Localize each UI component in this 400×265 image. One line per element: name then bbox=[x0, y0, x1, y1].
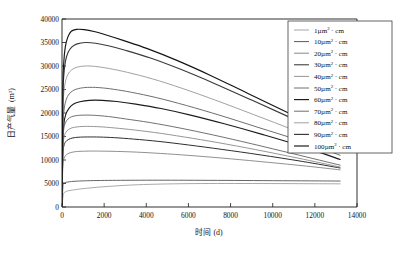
x-tick-label: 8000 bbox=[223, 211, 238, 220]
y-tick-label: 5000 bbox=[44, 179, 59, 188]
y-tick-label: 10000 bbox=[41, 156, 60, 165]
y-tick-label: 15000 bbox=[41, 132, 60, 141]
chart-figure: 0500010000150002000025000300003500040000… bbox=[0, 0, 400, 265]
x-axis-title-text: 时间 (d) bbox=[195, 227, 222, 237]
x-tick-label: 0 bbox=[60, 211, 64, 220]
x-tick-label: 6000 bbox=[181, 211, 196, 220]
legend-label-100: 100µm2· cm bbox=[314, 142, 351, 150]
x-tick-label: 10000 bbox=[263, 211, 282, 220]
x-tick-label: 4000 bbox=[139, 211, 154, 220]
y-axis-title-text: 日产气量 (m3) bbox=[6, 88, 16, 138]
y-tick-label: 30000 bbox=[41, 62, 60, 71]
y-tick-label: 35000 bbox=[41, 38, 60, 47]
y-tick-label: 40000 bbox=[41, 15, 60, 24]
chart-legend: 1µm2· cm10µm2· cm20µm2· cm30µm2· cm40µm2… bbox=[288, 21, 392, 153]
gas-production-line-chart: 0500010000150002000025000300003500040000… bbox=[0, 0, 400, 265]
y-tick-label: 25000 bbox=[41, 85, 60, 94]
x-tick-label: 2000 bbox=[97, 211, 112, 220]
y-axis-title-main: 日产气量 bbox=[6, 106, 16, 138]
x-tick-label: 14000 bbox=[348, 211, 367, 220]
y-tick-label: 20000 bbox=[41, 109, 60, 118]
y-tick-label: 0 bbox=[55, 203, 59, 212]
x-tick-label: 12000 bbox=[306, 211, 325, 220]
y-axis-title: 日产气量 (m3) bbox=[6, 88, 16, 138]
